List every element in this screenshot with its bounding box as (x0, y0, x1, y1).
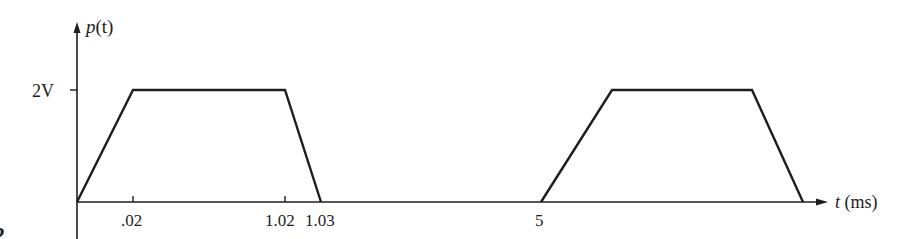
y-axis-label: p(t) (86, 17, 113, 36)
x-axis-arrow-icon (816, 199, 828, 206)
x-tick-label-5: 5 (535, 212, 544, 229)
x-tick-label-103: 1.03 (305, 212, 335, 229)
y-axis-arrow-icon (74, 22, 81, 33)
x-axis-label-var: t (835, 192, 840, 212)
y-axis-label-var: p (86, 16, 96, 37)
x-tick-label-102: 1.02 (265, 212, 295, 229)
cropped-figure-label: 2 (0, 222, 5, 239)
x-tick-label-002: .02 (121, 212, 142, 229)
pulse-chart (0, 0, 910, 239)
y-tick-label-2v: 2V (32, 82, 54, 100)
pulse-1 (77, 90, 321, 202)
x-axis-label: t (ms) (835, 193, 878, 211)
pulse-2 (541, 90, 803, 202)
y-axis-label-arg: (t) (96, 16, 114, 37)
x-axis-label-unit: (ms) (845, 192, 878, 212)
